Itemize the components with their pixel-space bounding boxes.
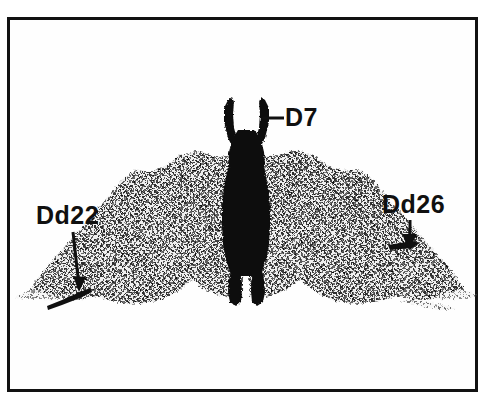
label-dd22: Dd22 bbox=[36, 203, 99, 228]
figure-root: D7 Dd22 Dd26 bbox=[0, 0, 491, 408]
label-d7: D7 bbox=[285, 105, 318, 130]
label-dd26: Dd26 bbox=[382, 192, 445, 217]
figure-blank-caption-area bbox=[12, 330, 472, 386]
